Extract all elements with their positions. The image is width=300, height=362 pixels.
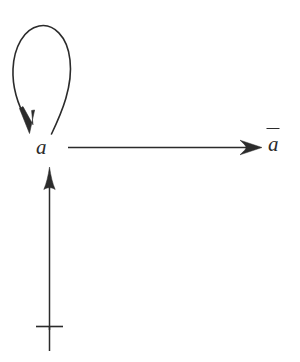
vertical-arrowhead [44, 167, 55, 190]
top-tack-symbol [36, 327, 63, 352]
node-a-glyph: a [36, 137, 47, 158]
node-label-a: a [36, 137, 47, 158]
self-loop-arrowhead [20, 107, 35, 134]
edge-self-loop [13, 26, 71, 134]
node-label-abar: a [268, 134, 279, 155]
edge-top-to-a [44, 167, 55, 330]
diagram-canvas: a a [0, 0, 300, 362]
diagram-svg [0, 0, 300, 362]
macron-accent-icon [267, 128, 280, 129]
node-abar-glyph: a [268, 134, 279, 155]
edge-a-to-abar [68, 140, 262, 155]
self-loop-path [13, 26, 71, 134]
